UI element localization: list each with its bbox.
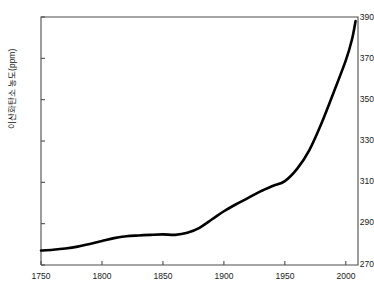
co2-trend-line (41, 21, 356, 250)
y-tick-marks (41, 17, 45, 265)
co2-concentration-chart: 이산화탄소 농도(ppm) 390 370 350 330 310 290 27… (0, 0, 374, 287)
x-tick-marks (41, 261, 346, 265)
plot-area (0, 0, 374, 287)
